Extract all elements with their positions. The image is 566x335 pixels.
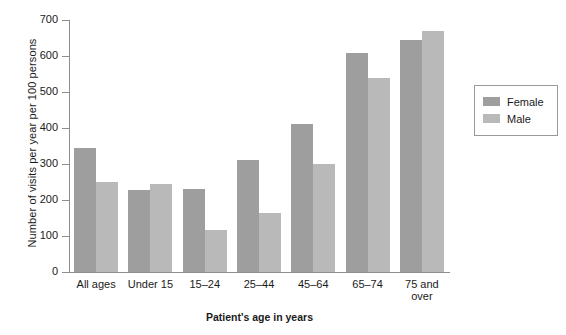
legend-item-female[interactable]: Female	[483, 93, 551, 110]
bar-female-2[interactable]	[183, 189, 205, 272]
y-axis-tick	[62, 56, 69, 57]
bar-male-3[interactable]	[259, 213, 281, 272]
x-axis-tick-label: 65–74	[340, 278, 394, 290]
legend-label-female: Female	[507, 96, 544, 108]
y-axis-tick-label: 0	[18, 266, 58, 277]
bar-male-1[interactable]	[150, 184, 172, 272]
y-axis-tick	[62, 20, 69, 21]
x-axis-tick-label: 15–24	[178, 278, 232, 290]
chart-legend: Female Male	[474, 85, 558, 136]
x-axis-tick-label: All ages	[69, 278, 123, 290]
x-axis-tick-label: 45–64	[286, 278, 340, 290]
y-axis-tick-label: 200	[18, 194, 58, 205]
bar-male-0[interactable]	[96, 182, 118, 272]
y-axis-tick-label: 100	[18, 230, 58, 241]
legend-swatch-male-icon	[483, 114, 500, 123]
y-axis-tick-label: 400	[18, 122, 58, 133]
bar-male-4[interactable]	[313, 164, 335, 272]
y-axis-tick-label: 300	[18, 158, 58, 169]
y-axis-tick-label: 500	[18, 86, 58, 97]
legend-swatch-female-icon	[483, 97, 500, 106]
bar-female-5[interactable]	[346, 53, 368, 272]
y-axis-tick	[62, 92, 69, 93]
plot-area	[69, 20, 449, 272]
y-axis-tick	[62, 128, 69, 129]
x-axis-tick-label: Under 15	[123, 278, 177, 290]
x-axis-tick-label: 25–44	[232, 278, 286, 290]
bar-chart-figure: Number of visits per year per 100 person…	[0, 0, 566, 335]
bar-female-0[interactable]	[74, 148, 96, 272]
y-axis-tick	[62, 164, 69, 165]
bar-female-4[interactable]	[291, 124, 313, 272]
x-axis-title: Patient's age in years	[69, 311, 450, 323]
y-axis-tick-label: 600	[18, 50, 58, 61]
y-axis-tick	[62, 272, 69, 273]
legend-item-male[interactable]: Male	[483, 110, 551, 127]
bar-female-1[interactable]	[128, 190, 150, 272]
y-axis-tick	[62, 236, 69, 237]
bar-male-5[interactable]	[368, 78, 390, 272]
bar-male-2[interactable]	[205, 230, 227, 272]
x-axis-tick-label: 75 and over	[395, 278, 449, 302]
y-axis-tick-label: 700	[18, 14, 58, 25]
bar-female-3[interactable]	[237, 160, 259, 272]
x-axis-line	[69, 272, 450, 273]
bar-male-6[interactable]	[422, 31, 444, 272]
legend-label-male: Male	[507, 113, 531, 125]
bar-female-6[interactable]	[400, 40, 422, 272]
y-axis-tick	[62, 200, 69, 201]
